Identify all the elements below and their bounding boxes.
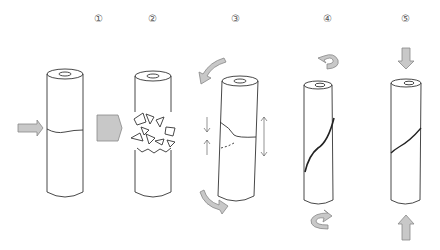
curved-torsion-arrows-icon [199, 58, 228, 214]
fracture-mechanism-diagram: ① ② ③ ④ ⑤ .ln { fill: none; stroke: #333… [0, 0, 440, 250]
cylinder-1 [47, 69, 83, 197]
diagram-canvas: .ln { fill: none; stroke: #333; stroke-w… [0, 0, 440, 250]
horizontal-arrow-icon [18, 120, 43, 136]
vertical-compression-arrows-icon [398, 48, 414, 240]
cylinder-2-fragmenting [131, 71, 175, 197]
cylinder-4-spiral [304, 81, 334, 204]
cylinder-5-oblique [391, 79, 421, 204]
cylinder-3-torsion [218, 76, 258, 201]
large-horizontal-arrow-icon [97, 115, 122, 141]
axial-stress-arrows-icon [204, 117, 267, 156]
